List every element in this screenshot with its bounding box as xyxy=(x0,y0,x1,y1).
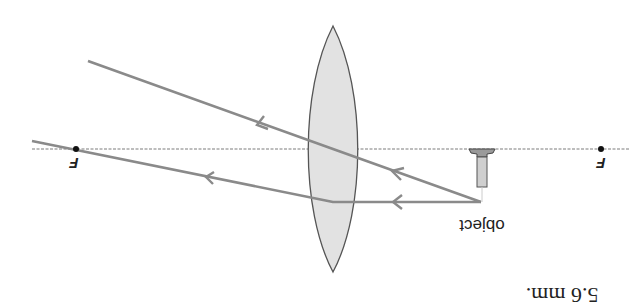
lens-ray-diagram: F F object 5.6 mm. xyxy=(0,0,634,308)
diagram-canvas: F F object 5.6 mm. xyxy=(0,0,634,308)
object-pin xyxy=(469,149,495,202)
focal-point-left xyxy=(73,146,79,152)
object-label: object xyxy=(459,216,505,235)
focal-label-right: F xyxy=(596,155,606,172)
ray-parallel-refracted xyxy=(32,141,481,202)
focal-label-left: F xyxy=(69,155,79,172)
caption-text: 5.6 mm. xyxy=(526,283,599,308)
focal-point-right xyxy=(598,146,604,152)
ray-through-center xyxy=(88,61,481,202)
